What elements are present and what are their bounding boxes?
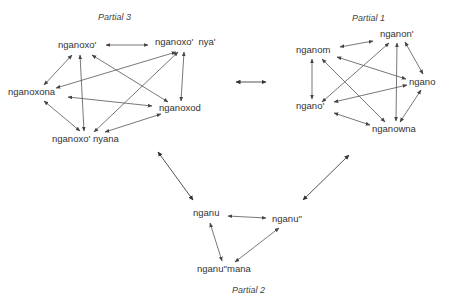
partial-3-group: Partial 3 nganoxo' nganoxo' nya' nganoxo…: [8, 12, 216, 144]
node-nganoxona: nganoxona: [8, 86, 56, 97]
node-nganon: nganon': [380, 28, 414, 39]
node-nganom: nganom: [296, 44, 330, 55]
partial-1-group: Partial 1 nganon' nganom ngano ngano' ng…: [296, 13, 435, 134]
node-nganu-mana: nganu''mana: [197, 263, 252, 274]
node-nganu: nganu: [193, 207, 219, 218]
node-nganoxo-nyana: nganoxo' nyana: [52, 133, 120, 144]
partials-diagram: Partial 3 nganoxo' nganoxo' nya' nganoxo…: [0, 0, 453, 303]
node-nganoxo-nya: nganoxo' nya': [155, 36, 216, 47]
node-ngano: ngano: [409, 76, 435, 87]
node-ngano-prime: ngano': [296, 100, 324, 111]
partial-2-title: Partial 2: [232, 285, 265, 295]
connector-p1-p2: [303, 155, 349, 200]
partial-3-title: Partial 3: [98, 12, 131, 22]
partial-2-edges: [210, 216, 279, 262]
node-nganoxod: nganoxod: [159, 102, 201, 113]
node-nganoxo: nganoxo': [58, 39, 96, 50]
partial-3-edges: [44, 45, 184, 132]
node-nganu-double-prime: nganu'': [272, 213, 302, 224]
partial-2-group: nganu nganu'' nganu''mana Partial 2: [193, 207, 302, 295]
partial-1-title: Partial 1: [352, 13, 385, 23]
connector-p3-p2: [158, 152, 193, 200]
node-nganowna: nganowna: [372, 123, 417, 134]
